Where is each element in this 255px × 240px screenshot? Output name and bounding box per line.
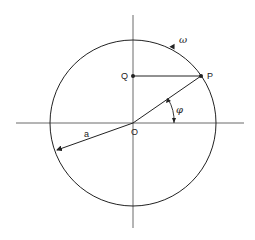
P-label: P — [207, 71, 213, 81]
O-label: O — [131, 127, 138, 137]
a-label: a — [84, 129, 89, 139]
phi-label: φ — [176, 104, 183, 115]
Q-label: Q — [121, 71, 128, 81]
radius-a-arrow — [57, 123, 133, 150]
omega-label: ω — [179, 34, 187, 45]
reference-circle-diagram: ω P Q φ O a — [0, 0, 255, 240]
point-Q-dot — [131, 74, 135, 78]
point-P-dot — [199, 74, 203, 78]
phi-arrow-bottom-icon — [172, 118, 176, 123]
